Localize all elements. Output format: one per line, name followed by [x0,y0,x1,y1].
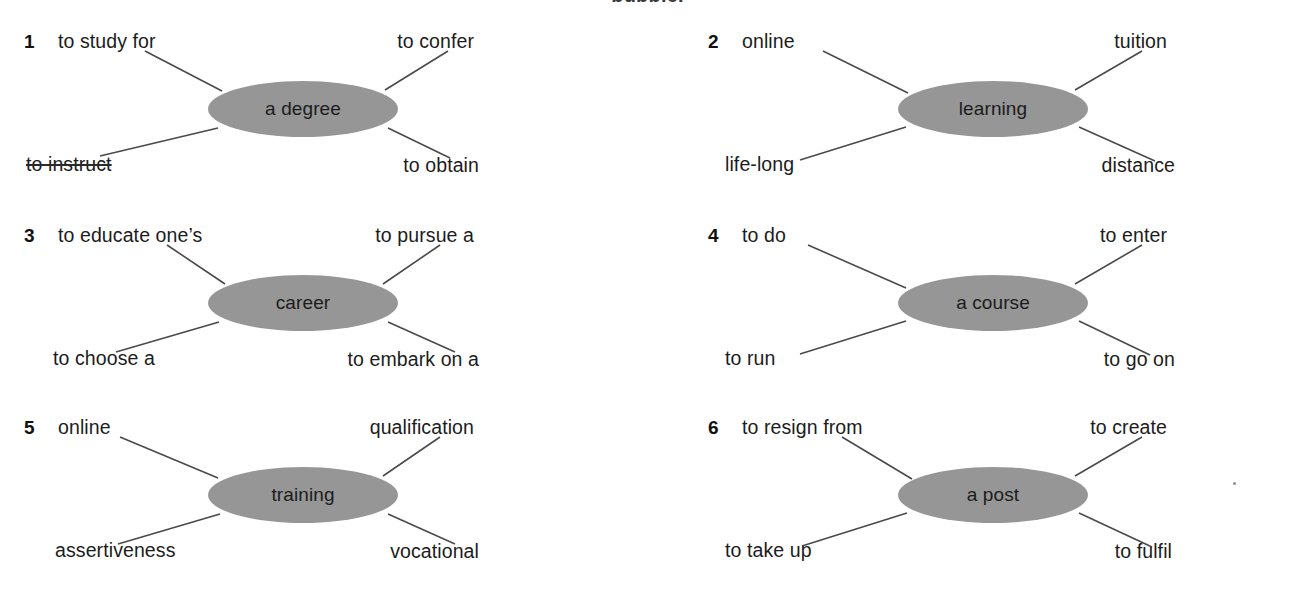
bubble-1-number: 1 [24,31,35,53]
bubble-3-satellite-bottom-left: to choose a [53,347,155,370]
bubble-5-number: 5 [24,417,35,439]
bubble-5-center-label: training [208,484,398,506]
connector-top-left [823,51,908,93]
bubble-3-satellite-bottom-right: to embark on a [348,348,479,371]
bubble-5-satellite-bottom-right: vocational [390,540,479,563]
bubble-1-satellite-bottom-left: to instruct [26,153,112,176]
bubble-2-satellite-bottom-left: life-long [725,153,794,176]
scan-artifact-speck [1233,482,1236,485]
bubble-diagram-6: 6 to resign from to create to take up to… [690,404,1295,584]
connector-top-left [120,437,218,478]
bubble-4-center-label: a course [898,292,1088,314]
bubble-3-satellite-top-left: to educate one’s [58,224,202,247]
connector-top-right [383,437,440,476]
bubble-4-satellite-bottom-left: to run [725,347,775,370]
connector-bottom-left [802,513,907,546]
bubble-3-satellite-top-right: to pursue a [375,224,474,247]
bubble-1-center-label: a degree [208,98,398,120]
bubble-2-center-label: learning [898,98,1088,120]
bubble-1-satellite-top-right: to confer [397,30,474,53]
bubble-1-satellite-bottom-right: to obtain [403,154,479,177]
connector-top-right [385,51,448,90]
bubble-5-satellite-top-left: online [58,416,111,439]
connector-top-left [145,51,222,91]
bubble-2-satellite-top-right: tuition [1114,30,1167,53]
bubble-3-center-label: career [208,292,398,314]
connector-top-right [1075,437,1142,476]
bubble-3-number: 3 [24,225,35,247]
bubble-diagram-4: 4 to do to enter to run to go on a cours… [690,212,1295,392]
connector-bottom-left [100,128,218,156]
bubble-6-satellite-top-left: to resign from [742,416,863,439]
bubble-1-satellite-top-left: to study for [58,30,156,53]
worksheet-page: bubble. 1 to study for to confer to inst… [0,0,1295,602]
bubble-6-satellite-bottom-right: to fulfil [1115,540,1172,563]
connector-bottom-left [800,127,906,160]
bubble-2-satellite-bottom-right: distance [1102,154,1175,177]
bubble-4-number: 4 [708,225,719,247]
bubble-6-satellite-bottom-left: to take up [725,539,812,562]
connector-top-right [1075,51,1142,90]
bubble-diagram-2: 2 online tuition life-long distance lear… [690,18,1295,198]
bubble-6-center-label: a post [898,484,1088,506]
bubble-6-satellite-top-right: to create [1090,416,1167,439]
bubble-4-satellite-top-left: to do [742,224,786,247]
connector-top-left [808,245,906,288]
bubble-4-satellite-bottom-right: to go on [1104,348,1175,371]
bubble-diagram-5: 5 online qualification assertiveness voc… [0,404,620,584]
bubble-2-number: 2 [708,31,719,53]
bubble-diagram-3: 3 to educate one’s to pursue a to choose… [0,212,620,392]
bubble-2-satellite-top-left: online [742,30,795,53]
connector-top-left [842,437,912,479]
bubble-5-satellite-bottom-left: assertiveness [55,539,176,562]
connector-top-right [1075,245,1142,284]
bubble-diagram-1: 1 to study for to confer to instruct to … [0,18,620,198]
bubble-6-number: 6 [708,417,719,439]
connector-bottom-left [800,321,906,354]
connector-top-right [383,245,440,284]
bubble-4-satellite-top-right: to enter [1100,224,1167,247]
clipped-heading-text: bubble. [0,0,1295,7]
bubble-5-satellite-top-right: qualification [370,416,474,439]
connector-top-left [167,245,225,284]
